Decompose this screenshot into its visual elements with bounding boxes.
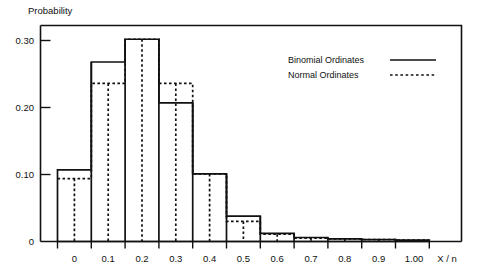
x-tick-label-08: 0.8	[338, 253, 351, 264]
x-tick-label-01: 0.1	[102, 253, 115, 264]
x-axis-title: X / n	[437, 253, 457, 264]
x-tick-label-03: 0.3	[169, 253, 182, 264]
x-tick-label-100: 1.00	[405, 253, 424, 264]
x-axis-tick-labels: 0 0.1 0.2 0.3 0.4 0.5 0.6 0.7 0.8 0.9 1.…	[72, 253, 423, 264]
y-axis-tick-labels: 0.30 0.20 0.10 0	[16, 35, 35, 247]
binomial-step-outline	[58, 39, 430, 241]
plot-frame	[41, 26, 462, 242]
y-axis-title: Probability	[28, 5, 73, 16]
normal-step-top	[58, 39, 430, 240]
y-axis-ticks	[41, 41, 51, 175]
binomial-normal-ordinates-chart: Probability 0.30 0.20 0.10 0	[0, 0, 486, 272]
x-axis-ticks	[58, 242, 430, 249]
legend-label-binomial: Binomial Ordinates	[288, 55, 365, 65]
x-tick-label-09: 0.9	[372, 253, 385, 264]
y-tick-label-0: 0	[29, 236, 34, 247]
chart-legend: Binomial Ordinates Normal Ordinates	[288, 55, 436, 80]
x-tick-label-05: 0.5	[237, 253, 250, 264]
chart-figure: Probability 0.30 0.20 0.10 0	[0, 0, 486, 272]
x-tick-label-07: 0.7	[304, 253, 317, 264]
y-tick-label-010: 0.10	[16, 169, 35, 180]
normal-ordinates-series	[58, 39, 430, 241]
x-tick-label-06: 0.6	[271, 253, 284, 264]
y-tick-label-020: 0.20	[16, 102, 35, 113]
x-tick-label-04: 0.4	[203, 253, 216, 264]
legend-label-normal: Normal Ordinates	[288, 70, 359, 80]
x-tick-label-0: 0	[72, 253, 77, 264]
binomial-ordinates-series	[58, 39, 430, 241]
x-tick-label-02: 0.2	[135, 253, 148, 264]
y-tick-label-030: 0.30	[16, 35, 35, 46]
